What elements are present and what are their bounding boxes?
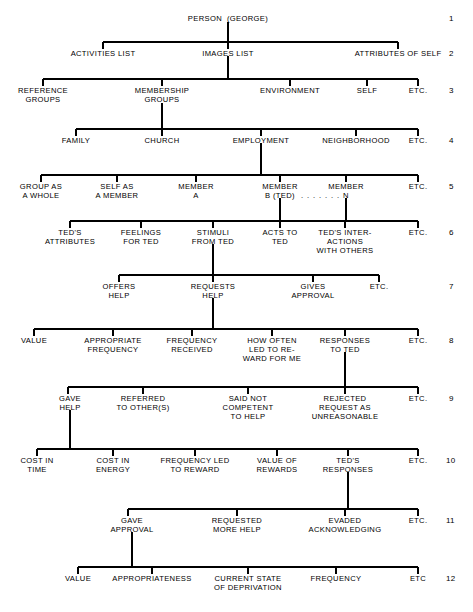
row-number-11: 11 (446, 516, 455, 525)
node-requested-more-help[interactable]: REQUESTEDMORE HELP (212, 516, 262, 534)
node-evaded-acknowledging[interactable]: EVADEDACKNOWLEDGING (309, 516, 382, 534)
node-images-list[interactable]: IMAGES LIST (202, 49, 254, 58)
node-teds-interactions-with-others[interactable]: TED'S INTER-ACTIONSWITH OTHERS (316, 228, 373, 256)
node-requests-help[interactable]: REQUESTSHELP (191, 282, 236, 300)
row-number-5: 5 (449, 182, 454, 191)
node-gave-approval[interactable]: GAVEAPPROVAL (110, 516, 153, 534)
node-environment[interactable]: ENVIRONMENT (260, 86, 320, 95)
node-membership-groups[interactable]: MEMBERSHIPGROUPS (135, 86, 190, 104)
node-etc-level8[interactable]: ETC. (409, 336, 428, 345)
node-rejected-request-as-unreasonable[interactable]: REJECTEDREQUEST ASUNREASONABLE (312, 394, 379, 422)
node-acts-to-ted[interactable]: ACTS TOTED (262, 228, 297, 246)
tree-diagram-page: PERSON (GEORGE) ACTIVITIES LIST IMAGES L… (0, 0, 473, 612)
node-member-b-ted[interactable]: MEMBERB (TED) (262, 182, 297, 200)
node-member-a[interactable]: MEMBERA (178, 182, 213, 200)
node-appropriateness[interactable]: APPROPRIATENESS (112, 574, 191, 583)
node-etc-level11[interactable]: ETC. (409, 516, 428, 525)
node-offers-help[interactable]: OFFERSHELP (103, 282, 136, 300)
node-attributes-of-self[interactable]: ATTRIBUTES OF SELF (355, 49, 442, 58)
node-cost-in-time[interactable]: COST INTIME (20, 456, 53, 474)
node-frequency-level12[interactable]: FREQUENCY (311, 574, 362, 583)
node-church[interactable]: CHURCH (144, 136, 179, 145)
node-responses-to-ted[interactable]: RESPONSESTO TED (320, 336, 370, 354)
row-number-6: 6 (449, 228, 454, 237)
node-neighborhood[interactable]: NEIGHBORHOOD (322, 136, 390, 145)
node-reference-groups[interactable]: REFERENCEGROUPS (18, 86, 68, 104)
node-frequency-led-to-reward[interactable]: FREQUENCY LEDTO REWARD (161, 456, 230, 474)
node-teds-responses[interactable]: TED'SRESPONSES (323, 456, 373, 474)
node-person[interactable]: PERSON (GEORGE) (188, 14, 268, 23)
node-etc-level6[interactable]: ETC. (409, 228, 428, 237)
row-number-3: 3 (449, 86, 454, 95)
node-value-level12[interactable]: VALUE (65, 574, 91, 583)
node-group-as-a-whole[interactable]: GROUP ASA WHOLE (20, 182, 62, 200)
node-said-not-competent-to-help[interactable]: SAID NOTCOMPETENTTO HELP (223, 394, 274, 422)
row-number-2: 2 (449, 49, 454, 58)
node-referred-to-others[interactable]: REFERREDTO OTHER(S) (116, 394, 169, 412)
node-etc-level7[interactable]: ETC. (370, 282, 389, 291)
node-etc-level9[interactable]: ETC. (409, 394, 428, 403)
node-self-as-a-member[interactable]: SELF ASA MEMBER (96, 182, 139, 200)
node-activities-list[interactable]: ACTIVITIES LIST (71, 49, 136, 58)
node-gives-approval[interactable]: GIVESAPPROVAL (291, 282, 334, 300)
node-value-level8[interactable]: VALUE (21, 336, 47, 345)
node-feelings-for-ted[interactable]: FEELINGSFOR TED (121, 228, 161, 246)
row-number-12: 12 (446, 574, 455, 583)
node-how-often-led-to-reward-for-me[interactable]: HOW OFTENLED TO RE-WARD FOR ME (243, 336, 301, 364)
node-member-n[interactable]: MEMBERN (328, 182, 363, 200)
node-etc-level3[interactable]: ETC. (409, 86, 428, 95)
node-employment[interactable]: EMPLOYMENT (233, 136, 290, 145)
row-number-8: 8 (449, 336, 454, 345)
row-number-4: 4 (449, 136, 454, 145)
row-number-9: 9 (449, 394, 454, 403)
row-number-1: 1 (449, 14, 454, 23)
node-family[interactable]: FAMILY (62, 136, 91, 145)
node-etc-level5[interactable]: ETC. (409, 182, 428, 191)
node-etc-level12[interactable]: ETC (410, 574, 426, 583)
node-value-of-rewards[interactable]: VALUE OFREWARDS (257, 456, 298, 474)
node-stimuli-from-ted[interactable]: STIMULIFROM TED (192, 228, 234, 246)
node-appropriate-frequency[interactable]: APPROPRIATEFREQUENCY (84, 336, 141, 354)
node-self[interactable]: SELF (357, 86, 377, 95)
node-etc-level10[interactable]: ETC. (409, 456, 428, 465)
node-cost-in-energy[interactable]: COST INENERGY (96, 456, 130, 474)
row-number-7: 7 (449, 282, 454, 291)
node-etc-level4[interactable]: ETC. (409, 136, 428, 145)
row-number-10: 10 (446, 456, 455, 465)
node-frequency-received[interactable]: FREQUENCYRECEIVED (167, 336, 218, 354)
node-teds-attributes[interactable]: TED'SATTRIBUTES (45, 228, 95, 246)
node-gave-help[interactable]: GAVEHELP (59, 394, 81, 412)
node-current-state-of-deprivation[interactable]: CURRENT STATEOF DEPRIVATION (214, 574, 282, 592)
